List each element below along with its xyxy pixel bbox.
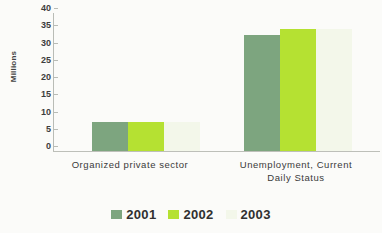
bar-chart-figure: Millions 0510152025303540 Organized priv… <box>0 0 382 233</box>
legend-label: 2001 <box>126 207 156 222</box>
bar-2001-0 <box>92 122 128 151</box>
y-axis-title: Millions <box>9 37 18 97</box>
y-axis-tick-label: 20 <box>21 72 51 82</box>
legend-swatch-icon <box>111 210 122 219</box>
x-axis-label-line: Organized private sector <box>53 158 207 171</box>
y-axis-tick-label: 15 <box>21 89 51 99</box>
legend-item-2002[interactable]: 2002 <box>168 207 213 222</box>
plot-area: 0510152025303540 <box>53 13 380 152</box>
y-axis-tick-label: 10 <box>21 107 51 117</box>
x-axis-label-line: Unemployment, Current <box>208 158 382 171</box>
bar-2002-0 <box>128 122 164 151</box>
bar-2002-1 <box>280 29 316 151</box>
y-axis-tick-mark <box>54 60 58 61</box>
x-axis-line <box>53 151 380 152</box>
legend-swatch-icon <box>168 210 179 219</box>
chart-legend: 200120022003 <box>0 207 382 222</box>
y-axis-tick-mark <box>54 112 58 113</box>
legend-label: 2003 <box>241 207 271 222</box>
legend-item-2001[interactable]: 2001 <box>111 207 156 222</box>
y-axis-tick-mark <box>54 43 58 44</box>
y-axis-tick-label: 0 <box>21 141 51 151</box>
y-axis-tick-label: 5 <box>21 124 51 134</box>
legend-swatch-icon <box>226 210 237 219</box>
y-axis-tick-mark <box>54 129 58 130</box>
bar-group <box>244 13 352 151</box>
x-axis-label-line: Daily Status <box>208 171 382 184</box>
y-axis-line <box>53 13 54 152</box>
y-axis-tick-label: 40 <box>21 3 51 13</box>
y-axis-tick-mark <box>54 94 58 95</box>
x-axis-label: Organized private sector <box>53 158 207 171</box>
y-axis-tick-mark <box>54 146 58 147</box>
y-axis-tick-label: 25 <box>21 55 51 65</box>
legend-item-2003[interactable]: 2003 <box>226 207 271 222</box>
bar-2003-1 <box>316 29 352 151</box>
bar-group <box>92 13 200 151</box>
y-axis-tick-mark <box>54 25 58 26</box>
bar-2001-1 <box>244 35 280 151</box>
bar-2003-0 <box>164 122 200 151</box>
y-axis-tick-label: 35 <box>21 20 51 30</box>
x-axis-label: Unemployment, CurrentDaily Status <box>208 158 382 184</box>
legend-label: 2002 <box>183 207 213 222</box>
x-axis-category-labels: Organized private sector Unemployment, C… <box>53 158 382 198</box>
y-axis-tick-label: 30 <box>21 38 51 48</box>
y-axis-tick-mark <box>54 8 58 9</box>
y-axis-tick-mark <box>54 77 58 78</box>
